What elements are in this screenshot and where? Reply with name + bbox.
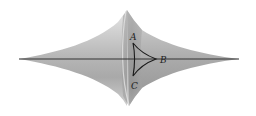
vertex-label-a: A [129, 32, 137, 42]
pseudosphere-diagram: A B C [0, 0, 256, 116]
vertex-label-c: C [131, 81, 138, 91]
pseudosphere-right-horn [127, 10, 239, 106]
pseudosphere-left-horn [19, 10, 127, 106]
vertex-label-b: B [159, 55, 167, 65]
